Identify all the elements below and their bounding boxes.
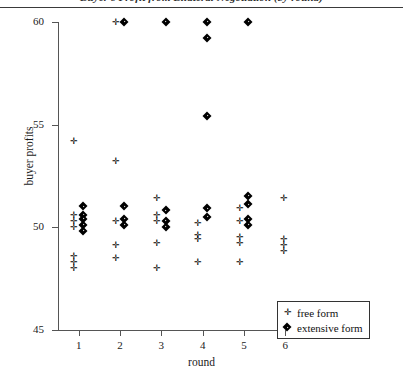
plot-area <box>58 22 306 330</box>
data-point-free-form <box>70 265 77 272</box>
data-point-extensive-form <box>204 35 211 42</box>
y-axis-tick <box>52 125 58 126</box>
data-point-extensive-form <box>245 19 252 26</box>
x-axis-label: round <box>0 356 403 368</box>
data-point-free-form <box>194 236 201 243</box>
data-point-free-form <box>153 218 160 225</box>
x-axis-tick <box>285 330 286 336</box>
data-point-extensive-form <box>204 113 211 120</box>
y-axis-tick-label: 55 <box>0 119 44 130</box>
data-point-free-form <box>194 259 201 266</box>
data-point-extensive-form <box>121 19 128 26</box>
x-axis-tick-label: 2 <box>107 339 133 351</box>
data-point-extensive-form <box>163 224 170 231</box>
y-axis-tick <box>52 330 58 331</box>
x-axis-tick <box>120 330 121 336</box>
data-point-free-form <box>236 218 243 225</box>
y-axis-tick-label: 60 <box>0 16 44 27</box>
data-point-extensive-form <box>204 19 211 26</box>
legend-item-free-form[interactable]: free form <box>282 305 363 320</box>
data-point-free-form <box>153 195 160 202</box>
legend-label: extensive form <box>297 322 363 334</box>
page-title: Buyer's Profit from Bilateral Negotiatio… <box>0 0 403 3</box>
x-axis-tick <box>203 330 204 336</box>
data-point-extensive-form <box>80 228 87 235</box>
legend-item-extensive-form[interactable]: extensive form <box>282 320 363 335</box>
x-axis-tick-label: 5 <box>231 339 257 351</box>
data-point-free-form <box>280 248 287 255</box>
data-point-free-form <box>236 259 243 266</box>
data-point-free-form <box>153 265 160 272</box>
title-divider <box>0 7 403 8</box>
free-form-marker-icon <box>282 307 294 318</box>
x-axis-tick <box>244 330 245 336</box>
data-point-extensive-form <box>245 201 252 208</box>
y-axis-tick <box>52 227 58 228</box>
data-point-extensive-form <box>204 214 211 221</box>
x-axis-tick <box>79 330 80 336</box>
data-point-free-form <box>153 240 160 247</box>
legend-label: free form <box>297 307 338 319</box>
legend: free form extensive form <box>277 301 370 339</box>
data-point-free-form <box>70 138 77 145</box>
data-point-free-form <box>112 19 119 26</box>
extensive-form-marker-icon <box>282 322 294 333</box>
data-point-free-form <box>112 255 119 262</box>
x-axis-tick-label: 3 <box>148 339 174 351</box>
data-point-extensive-form <box>245 193 252 200</box>
data-point-free-form <box>112 242 119 249</box>
x-axis-line <box>58 330 306 331</box>
data-point-extensive-form <box>121 222 128 229</box>
data-point-extensive-form <box>121 203 128 210</box>
data-point-extensive-form <box>80 203 87 210</box>
data-point-extensive-form <box>245 222 252 229</box>
x-axis-tick-label: 6 <box>272 339 298 351</box>
data-point-free-form <box>112 158 119 165</box>
data-point-free-form <box>112 218 119 225</box>
y-axis-tick-label: 45 <box>0 324 44 335</box>
x-axis-tick-label: 1 <box>66 339 92 351</box>
data-point-extensive-form <box>204 205 211 212</box>
y-axis-tick-label: 50 <box>0 221 44 232</box>
data-point-free-form <box>70 224 77 231</box>
y-axis-tick <box>52 22 58 23</box>
data-point-extensive-form <box>163 19 170 26</box>
data-point-free-form <box>280 195 287 202</box>
x-axis-tick <box>161 330 162 336</box>
data-point-free-form <box>194 220 201 227</box>
x-axis-tick-label: 4 <box>190 339 216 351</box>
data-point-free-form <box>236 240 243 247</box>
data-point-free-form <box>236 205 243 212</box>
data-point-extensive-form <box>163 207 170 214</box>
